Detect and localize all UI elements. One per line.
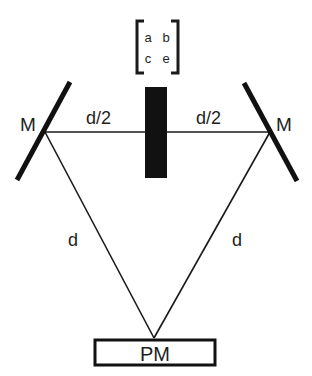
optical-diagram: a b c e M M d/2 d/2 d d PM [0, 0, 312, 376]
right-mirror-label: M [276, 114, 292, 135]
left-mirror-label: M [20, 114, 36, 135]
right-bracket [171, 21, 178, 73]
matrix-entry-e: e [162, 51, 169, 66]
right-leg-beam [154, 132, 270, 338]
matrix-entry-c: c [145, 51, 152, 66]
left-half-distance-label: d/2 [86, 108, 111, 128]
left-leg-beam [45, 132, 154, 338]
sample-slab [145, 87, 167, 178]
matrix-entry-b: b [162, 30, 169, 45]
matrix-entry-a: a [144, 30, 152, 45]
right-half-distance-label: d/2 [196, 108, 221, 128]
left-bracket [137, 21, 144, 73]
left-leg-distance-label: d [68, 230, 78, 250]
photomultiplier-label: PM [140, 343, 170, 365]
right-leg-distance-label: d [232, 230, 242, 250]
jones-matrix: a b c e [137, 21, 178, 73]
